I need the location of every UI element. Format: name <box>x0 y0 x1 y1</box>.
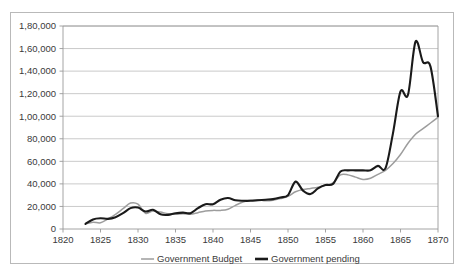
y-tick-label: 1,40,000 <box>19 65 56 76</box>
x-tick-label: 1840 <box>202 234 223 245</box>
y-tick-label: 1,00,000 <box>19 111 56 122</box>
x-tick-label: 1855 <box>315 234 336 245</box>
x-axis-tick-labels: 1820182518301835184018451850185518601865… <box>52 234 448 245</box>
x-tick-label: 1860 <box>352 234 373 245</box>
x-tick-label: 1835 <box>165 234 186 245</box>
chart-legend: Government BudgetGovernment pending <box>141 253 360 264</box>
legend-label: Government Budget <box>157 253 242 264</box>
y-tick-label: 1,60,000 <box>19 43 56 54</box>
x-tick-label: 1825 <box>90 234 111 245</box>
y-tick-label: 80,000 <box>27 133 56 144</box>
y-tick-label: 40,000 <box>27 178 56 189</box>
y-axis-tick-labels: 020,00040,00060,00080,0001,00,0001,20,00… <box>19 20 56 234</box>
x-tick-label: 1845 <box>240 234 261 245</box>
x-tick-label: 1870 <box>427 234 448 245</box>
y-tick-label: 60,000 <box>27 156 56 167</box>
x-tick-label: 1865 <box>390 234 411 245</box>
data-series <box>86 41 439 224</box>
y-tick-label: 20,000 <box>27 201 56 212</box>
y-tick-label: 1,80,000 <box>19 20 56 31</box>
axis-lines <box>63 26 438 229</box>
line-chart: 020,00040,00060,00080,0001,00,0001,20,00… <box>11 13 455 265</box>
legend-label: Government pending <box>271 253 360 264</box>
series-line-government-pending <box>86 41 439 224</box>
x-tick-label: 1830 <box>127 234 148 245</box>
y-tick-label: 1,20,000 <box>19 88 56 99</box>
plot-area-wrapper: 020,00040,00060,00080,0001,00,0001,20,00… <box>11 13 455 265</box>
x-tick-label: 1850 <box>277 234 298 245</box>
gridlines <box>63 26 438 206</box>
y-tick-label: 0 <box>51 223 56 234</box>
x-tick-label: 1820 <box>52 234 73 245</box>
chart-container: 020,00040,00060,00080,0001,00,0001,20,00… <box>10 12 454 264</box>
